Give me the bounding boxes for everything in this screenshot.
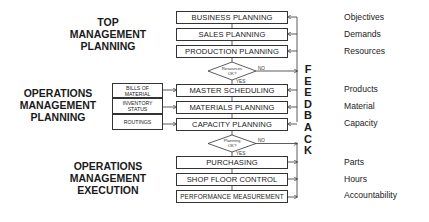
decision-label-resources: Resources OK? (219, 67, 245, 76)
output-accountability: Accountability (344, 190, 397, 200)
section-top-management-planning: TOP MANAGEMENT PLANNING (58, 16, 158, 52)
section-title-line: OPERATIONS (58, 160, 158, 172)
box-business-planning: BUSINESS PLANNING (176, 11, 288, 24)
section-title-line: MANAGEMENT (58, 28, 158, 40)
box-master-scheduling: MASTER SCHEDULING (176, 84, 288, 97)
input-bills-of-material: BILLS OF MATERIAL (112, 83, 163, 98)
decision-yes-resources: YES (236, 79, 245, 84)
feedback-label: F E E D B A C K (302, 64, 314, 157)
decision-yes-planning: YES (236, 151, 245, 156)
box-purchasing: PURCHASING (176, 156, 288, 169)
input-inventory-status: INVENTORY STATUS (112, 98, 163, 114)
feedback-letter: F (302, 64, 314, 76)
output-material: Material (344, 101, 375, 111)
output-resources: Resources (344, 46, 385, 56)
output-objectives: Objectives (344, 12, 384, 22)
section-title-line: EXECUTION (58, 184, 158, 196)
box-shop-floor-control: SHOP FLOOR CONTROL (176, 173, 288, 186)
box-performance-measurement: PERFORMANCE MEASUREMENT (176, 190, 288, 203)
section-title-line: MANAGEMENT (58, 172, 158, 184)
box-production-planning: PRODUCTION PLANNING (176, 45, 288, 58)
section-title-line: PLANNING (8, 111, 108, 123)
feedback-letter: A (302, 122, 314, 134)
section-title-line: MANAGEMENT (8, 99, 108, 111)
box-sales-planning: SALES PLANNING (176, 28, 288, 41)
output-capacity: Capacity (344, 118, 377, 128)
output-hours: Hours (344, 174, 367, 184)
output-parts: Parts (344, 157, 364, 167)
decision-no-planning: NO (258, 138, 265, 143)
decision-label-planning: Planning OK? (220, 139, 244, 148)
section-operations-management-execution: OPERATIONS MANAGEMENT EXECUTION (58, 160, 158, 196)
section-title-line: PLANNING (58, 40, 158, 52)
input-routings: ROUTINGS (112, 114, 163, 130)
section-title-line: TOP (58, 16, 158, 28)
box-materials-planning: MATERIALS PLANNING (176, 101, 288, 114)
feedback-letter: K (302, 145, 314, 157)
box-capacity-planning: CAPACITY PLANNING (176, 118, 288, 131)
output-products: Products (344, 84, 378, 94)
decision-no-resources: NO (258, 66, 265, 71)
section-title-line: OPERATIONS (8, 87, 108, 99)
section-operations-management-planning: OPERATIONS MANAGEMENT PLANNING (8, 87, 108, 123)
output-demands: Demands (344, 29, 381, 39)
